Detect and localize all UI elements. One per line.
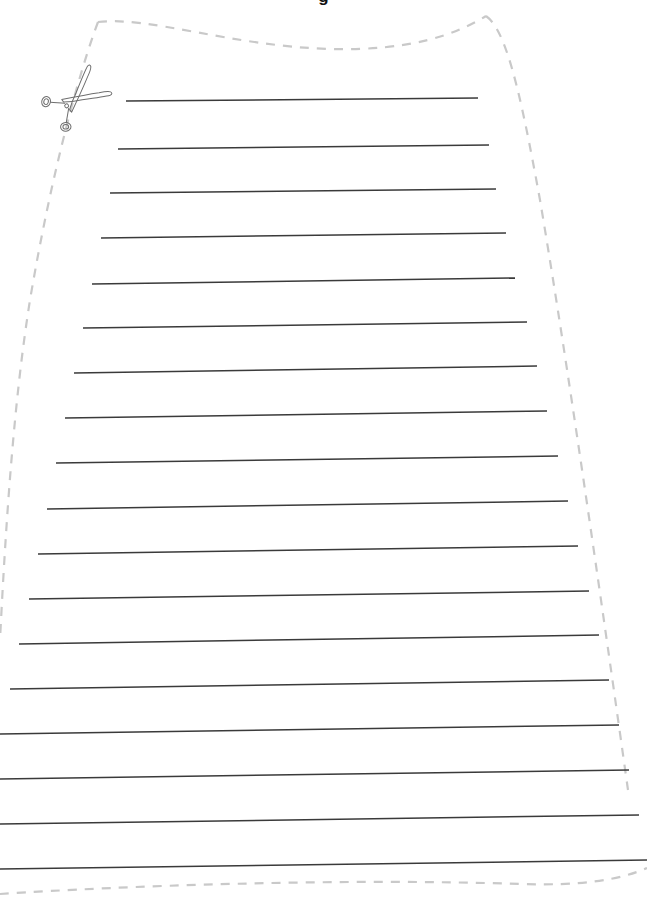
cut-line-right <box>486 16 628 790</box>
worksheet-canvas <box>0 0 647 904</box>
writing-line <box>74 366 537 373</box>
cut-line-left <box>0 22 98 640</box>
cut-line-bottom <box>0 868 647 894</box>
writing-line <box>92 278 515 284</box>
writing-line <box>29 591 589 599</box>
writing-line <box>65 411 547 418</box>
writing-line <box>101 233 506 238</box>
writing-line <box>0 770 629 779</box>
writing-line <box>126 98 478 101</box>
writing-line <box>47 501 568 509</box>
writing-line <box>118 145 489 149</box>
writing-line <box>0 815 639 824</box>
writing-line <box>56 456 558 463</box>
writing-lines-group <box>0 98 647 869</box>
writing-line <box>0 860 647 869</box>
writing-line <box>19 635 599 644</box>
cut-line-top <box>98 16 486 49</box>
writing-line <box>38 546 578 554</box>
dashed-cut-line-group <box>0 16 647 894</box>
writing-line <box>110 189 496 193</box>
scissors-icon <box>37 61 115 136</box>
worksheet-page: g <box>0 0 647 904</box>
writing-line <box>10 680 609 689</box>
writing-line <box>83 322 527 328</box>
writing-line <box>0 725 619 734</box>
